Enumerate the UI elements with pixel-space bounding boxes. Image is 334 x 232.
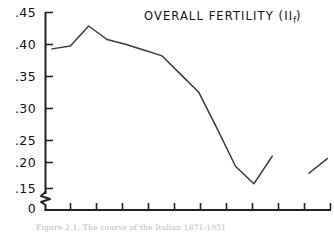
figure-caption: Figure 2.1. The course of the Italian 18…	[36, 223, 328, 232]
y-label-25: .25	[2, 133, 36, 148]
chart-title-main: OVERALL FERTILITY (I	[144, 9, 289, 23]
x-axis-ticks	[71, 203, 331, 210]
y-label-35: .35	[2, 69, 36, 84]
y-label-15: .15	[2, 181, 36, 196]
chart-title: OVERALL FERTILITY (IIf)	[144, 9, 302, 25]
y-label-45: .45	[2, 5, 36, 20]
y-label-40: .40	[2, 37, 36, 52]
y-label-20: .20	[2, 155, 36, 170]
chart-title-close-paren: )	[296, 9, 302, 23]
y-label-0: 0	[2, 201, 36, 216]
fertility-chart-figure: OVERALL FERTILITY (IIf) .45 .40 .35 .30 …	[0, 0, 334, 232]
y-label-30: .30	[2, 101, 36, 116]
fertility-line-main	[52, 26, 272, 184]
fertility-line-tail	[309, 159, 327, 174]
chart-plot-area	[0, 0, 334, 232]
